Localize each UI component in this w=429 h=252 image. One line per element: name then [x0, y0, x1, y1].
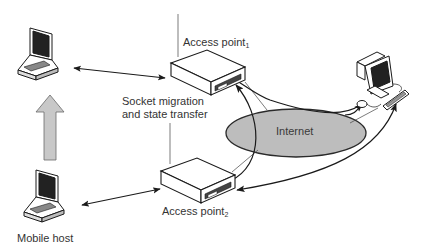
laptop-bottom-icon [24, 170, 64, 222]
access-point-1-label: Access point1 [183, 36, 249, 50]
access-point-2-icon [161, 158, 235, 203]
socket-migration-label: Socket migration and state transfer [122, 95, 208, 121]
wireless-links [74, 68, 165, 205]
desktop-computer-icon [357, 52, 409, 110]
socket-migration-line2: and state transfer [122, 108, 208, 121]
internet-desktop-line [350, 108, 378, 123]
movement-arrow [36, 95, 64, 160]
laptop-top-icon [18, 28, 58, 80]
access-point-1-icon [171, 50, 245, 95]
ap1-internet-line [245, 82, 267, 110]
mobile-host-label: Mobile host [17, 232, 73, 245]
socket-migration-line1: Socket migration [122, 95, 208, 108]
access-point-1-subscript: 1 [245, 42, 249, 49]
access-point-2-text: Access point [162, 205, 224, 217]
internet-label: Internet [276, 125, 313, 137]
access-point-2-label: Access point2 [162, 205, 228, 219]
laptop-top-ap1-link [74, 68, 165, 78]
access-point-1-text: Access point [183, 36, 245, 48]
access-point-2-subscript: 2 [224, 211, 228, 218]
laptop-bottom-ap2-link [82, 189, 160, 205]
